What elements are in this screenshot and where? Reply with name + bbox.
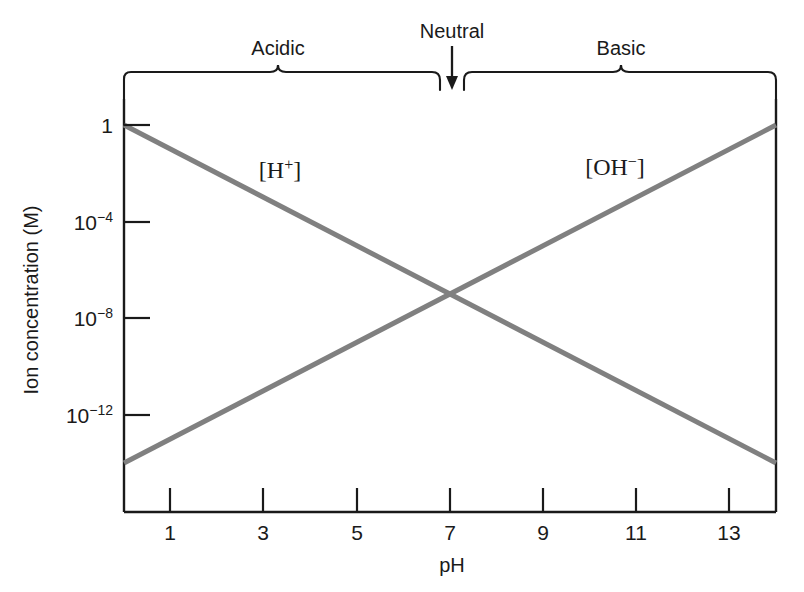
- y-axis-title: Ion concentration (M): [20, 206, 42, 395]
- data-series-group: [124, 125, 776, 463]
- axis-frame: [124, 99, 776, 512]
- y-tick-label-1: 1: [101, 114, 113, 137]
- y-tick-1e-4-mantissa: 10: [74, 211, 97, 234]
- oh-minus-bracket-close: ]: [637, 154, 645, 180]
- y-tick-1e-4-exponent: −4: [97, 209, 113, 225]
- x-tick-label-5: 5: [351, 521, 363, 544]
- chart-canvas: Acidic Neutral Basic: [0, 0, 804, 592]
- y-tick-1e-12-exponent: −12: [89, 402, 113, 418]
- region-annotations: Acidic Neutral Basic: [124, 20, 776, 99]
- y-tick-1e-8-mantissa: 10: [74, 307, 97, 330]
- x-tick-label-3: 3: [257, 521, 269, 544]
- acidic-brace: [124, 65, 440, 99]
- h-plus-bracket-close: ]: [293, 157, 301, 183]
- x-tick-label-13: 13: [717, 521, 740, 544]
- x-axis-ticks: 1 3 5 7 9 11 13: [164, 488, 741, 544]
- x-axis-title: pH: [439, 554, 465, 576]
- x-tick-label-1: 1: [164, 521, 176, 544]
- basic-brace: [464, 65, 776, 99]
- y-axis-ticks: 1 10−4 10−8 10−12: [66, 114, 150, 427]
- h-plus-superscript: +: [284, 156, 293, 173]
- neutral-arrow-head-icon: [446, 76, 458, 90]
- y-tick-label-1e-12: 10−12: [66, 402, 113, 427]
- series-label-oh-minus: [OH−]: [585, 153, 645, 180]
- ph-ion-concentration-figure: Acidic Neutral Basic: [0, 0, 804, 592]
- y-tick-1e-8-exponent: −8: [97, 305, 113, 321]
- series-label-h-plus: [H+]: [259, 156, 301, 183]
- x-tick-label-9: 9: [537, 521, 549, 544]
- y-tick-1-mantissa: 1: [101, 114, 113, 137]
- basic-label: Basic: [597, 37, 646, 59]
- x-tick-label-11: 11: [625, 521, 647, 544]
- acidic-label: Acidic: [251, 37, 304, 59]
- h-plus-bracket-open: [H: [259, 157, 284, 183]
- y-tick-1e-12-mantissa: 10: [66, 404, 89, 427]
- y-tick-label-1e-8: 10−8: [74, 305, 114, 330]
- oh-minus-bracket-open: [OH: [585, 154, 628, 180]
- neutral-label: Neutral: [420, 20, 484, 42]
- y-tick-label-1e-4: 10−4: [74, 209, 114, 234]
- oh-minus-superscript: −: [628, 153, 637, 170]
- x-tick-label-7: 7: [444, 521, 456, 544]
- series-labels: [H+] [OH−]: [259, 153, 645, 183]
